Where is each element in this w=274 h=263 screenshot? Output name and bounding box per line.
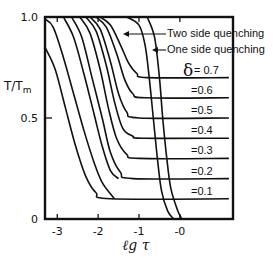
x-axis-label: ℓg τ — [123, 237, 150, 253]
y-axis-label-main: T/T — [3, 79, 23, 93]
x-tick-label: -0 — [174, 225, 185, 238]
delta-label: =0.1 — [191, 185, 213, 197]
delta-labels: δ= 0.7=0.6=0.5=0.4=0.3=0.2=0.1 — [183, 60, 219, 197]
arrowhead-icon — [152, 47, 158, 53]
delta-label: =0.2 — [191, 165, 213, 177]
x-tick-label: -2 — [93, 225, 104, 238]
delta-label: =0.3 — [191, 144, 213, 156]
annotation-label: One side quenching — [167, 43, 265, 55]
curve-extra-curve-1 — [45, 19, 114, 199]
y-tick-label: 1.0 — [21, 11, 39, 24]
delta-symbol: δ — [183, 60, 193, 80]
x-tick-label: -3 — [52, 225, 63, 238]
y-axis-label: T/Tm — [3, 79, 31, 95]
y-tick-label: 0.5 — [21, 112, 39, 125]
annotation-label: Two side quenching — [167, 27, 264, 39]
chart: -3-2-1-000.51.0 T/Tm ℓg τ Two side quenc… — [0, 0, 274, 263]
delta-label: = 0.7 — [194, 64, 219, 76]
delta-label: =0.4 — [191, 124, 213, 136]
y-tick-label: 0 — [31, 213, 38, 226]
arrowhead-icon — [123, 31, 129, 37]
y-axis-label-sub: m — [23, 85, 32, 95]
delta-label: =0.5 — [191, 104, 213, 116]
delta-label: =0.6 — [191, 84, 213, 96]
